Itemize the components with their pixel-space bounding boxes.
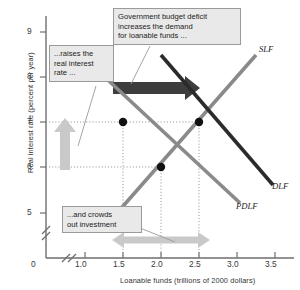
callout-rate-line1: ...raises the xyxy=(54,49,109,59)
y-tick-marks xyxy=(40,32,46,213)
y-tick-label-0: 0 xyxy=(31,259,36,269)
callout-deficit-line1: Government budget deficit xyxy=(118,12,236,22)
interest-rate-rise-arrow xyxy=(54,118,76,170)
x-tick-label-2-0: 2.0 xyxy=(151,259,163,269)
dot-new-equilibrium xyxy=(195,118,203,126)
callout-crowds-line1: ...and crowds xyxy=(67,210,137,220)
callout-rate-line3: rate ... xyxy=(54,68,109,78)
x-tick-label-2-5: 2.5 xyxy=(189,259,201,269)
curve-label-slf: SLF xyxy=(259,44,273,54)
callout-deficit-line3: for loanable funds ... xyxy=(118,31,236,41)
x-tick-label-1-5: 1.5 xyxy=(113,259,125,269)
crowding-out-arrow xyxy=(112,232,210,248)
dot-original-equilibrium xyxy=(157,163,165,171)
callout-crowding-out: ...and crowds out investment xyxy=(62,206,142,233)
y-tick-label-9: 9 xyxy=(27,26,32,36)
callout-deficit: Government budget deficit increases the … xyxy=(113,8,241,45)
y-tick-label-5: 5 xyxy=(27,207,32,217)
x-tick-label-3-0: 3.0 xyxy=(227,259,239,269)
callout-deficit-line2: increases the demand xyxy=(118,22,236,32)
dlf-curve xyxy=(161,55,273,185)
callout-crowds-line2: out investment xyxy=(67,220,137,230)
y-tick-label-6: 6 xyxy=(27,161,32,171)
y-tick-label-7: 7 xyxy=(27,116,32,126)
equilibrium-dots xyxy=(119,118,203,171)
callout-rate-line2: real interest xyxy=(54,59,109,69)
y-axis-title: Real interest rate (percent per year) xyxy=(26,28,35,198)
x-axis-title: Loanable funds (trillions of 2000 dollar… xyxy=(120,276,255,285)
chart-canvas: Real interest rate (percent per year) Lo… xyxy=(0,0,300,290)
x-tick-label-1-0: 1.0 xyxy=(75,259,87,269)
callout-rate-rise: ...raises the real interest rate ... xyxy=(49,45,114,82)
x-tick-label-3-5: 3.5 xyxy=(265,259,277,269)
curve-label-pdlf: PDLF xyxy=(236,201,257,211)
y-tick-label-8: 8 xyxy=(27,71,32,81)
x-tick-marks xyxy=(85,252,275,258)
curve-label-dlf: DLF xyxy=(272,181,288,191)
dot-private-quantity xyxy=(119,118,127,126)
